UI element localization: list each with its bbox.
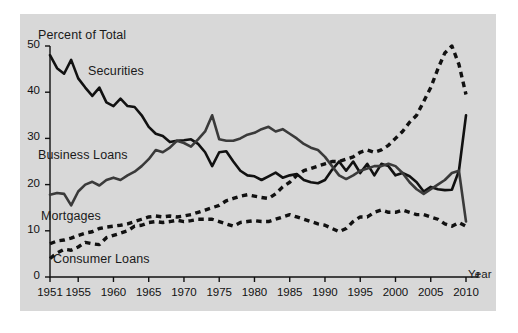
series-label-business-loans: Business Loans: [38, 148, 128, 162]
y-axis-title: Percent of Total: [38, 28, 126, 42]
x-tick-label: 2000: [375, 286, 415, 298]
x-tick-label: 1980: [234, 286, 274, 298]
chart-figure: Percent of Total Year Securities Busines…: [0, 0, 518, 333]
x-tick-label: 1965: [129, 286, 169, 298]
chart-plot-area: [0, 0, 518, 333]
x-tick-label: 1985: [270, 286, 310, 298]
series-label-securities: Securities: [88, 64, 144, 78]
y-tick-label: 40: [14, 84, 40, 96]
x-tick-label: 1955: [58, 286, 98, 298]
y-tick-label: 50: [14, 38, 40, 50]
x-tick-label: 2005: [411, 286, 451, 298]
x-tick-label: 1960: [93, 286, 133, 298]
x-tick-label: 1995: [340, 286, 380, 298]
x-tick-label: 1990: [305, 286, 345, 298]
x-tick-label: 2010: [446, 286, 486, 298]
y-tick-label: 20: [14, 177, 40, 189]
x-tick-label: 1970: [164, 286, 204, 298]
y-tick-label: 10: [14, 223, 40, 235]
series-label-mortgages: Mortgages: [41, 209, 101, 223]
y-tick-label: 0: [14, 269, 40, 281]
series-label-consumer-loans: Consumer Loans: [53, 252, 150, 266]
x-axis-title: Year: [468, 268, 492, 280]
x-tick-label: 1975: [199, 286, 239, 298]
y-tick-label: 30: [14, 130, 40, 142]
